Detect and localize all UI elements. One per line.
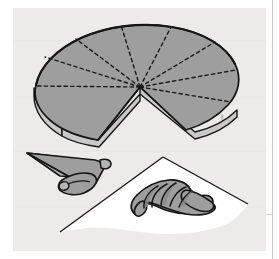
illustration-canvas [0, 0, 279, 259]
disc-centre-point [138, 85, 142, 89]
disc-speckle [220, 114, 223, 120]
croissant-figure: Croissant shaping diagram Technical illu… [0, 0, 279, 259]
triangle-right-nub [100, 159, 111, 169]
